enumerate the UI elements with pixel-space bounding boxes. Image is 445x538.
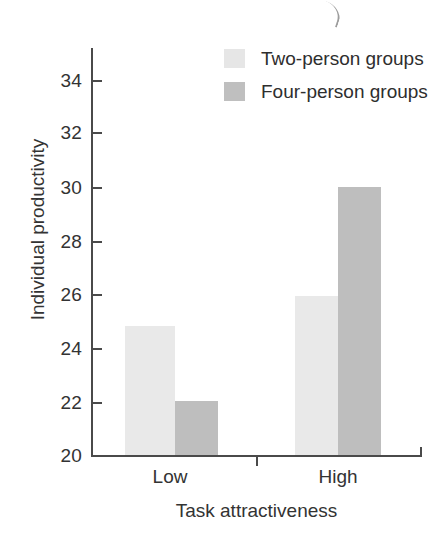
legend-item-four-person: Four-person groups — [224, 77, 439, 106]
legend-item-two-person: Two-person groups — [224, 44, 439, 73]
scan-artifact-mark — [310, 0, 343, 28]
legend-swatch-light-gray-icon — [224, 49, 245, 68]
y-tick-label-34: 34 — [40, 71, 82, 90]
chart-legend: Two-person groups Four-person groups — [224, 44, 439, 110]
x-category-label-high: High — [296, 466, 380, 488]
y-tick-label-20: 20 — [40, 446, 82, 465]
bar-high-two-person — [295, 296, 338, 455]
x-axis-title: Task attractiveness — [91, 500, 422, 522]
bar-low-four-person — [175, 401, 218, 455]
y-axis-title: Individual productivity — [27, 105, 48, 355]
x-tick-divider — [256, 457, 258, 466]
legend-label-two-person: Two-person groups — [261, 48, 424, 69]
x-category-label-low: Low — [128, 466, 212, 488]
y-tick-label-22: 22 — [40, 393, 82, 412]
bar-low-two-person — [125, 326, 175, 455]
legend-label-four-person: Four-person groups — [261, 81, 428, 102]
bar-high-four-person — [338, 187, 381, 455]
legend-swatch-medium-gray-icon — [224, 82, 245, 101]
bar-chart-figure: 34 32 30 28 26 24 22 20 Individual produ… — [0, 0, 445, 538]
